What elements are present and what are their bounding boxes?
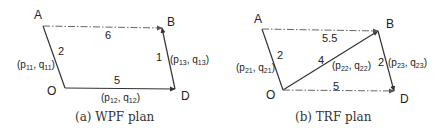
edge-weight-a-o: 2 xyxy=(277,49,283,61)
node-label-d: D xyxy=(400,92,409,106)
edge-weight-o-d: 5 xyxy=(333,80,339,92)
figure-trf-plan: A B O D 2 4 2 5.5 5 (p21, q21) (p22, q22… xyxy=(236,12,427,124)
path-label-2: (p12, q12) xyxy=(101,92,140,104)
edge-weight-a-o: 2 xyxy=(58,45,64,57)
node-label-o: O xyxy=(47,84,56,98)
path-label-1: (p11, q11) xyxy=(17,59,55,71)
edge-a-b xyxy=(43,26,162,28)
diagram-canvas: A B O D 2 5 1 6 (p11, q11) (p12, q12) (p… xyxy=(0,0,440,136)
node-label-b: B xyxy=(167,15,175,29)
caption-wpf-plan: (a) WPF plan xyxy=(75,110,155,124)
edge-a-o xyxy=(43,26,65,88)
path-label-3: (p13, q13) xyxy=(170,54,209,66)
node-label-d: D xyxy=(181,89,190,103)
node-label-a: A xyxy=(34,8,42,22)
edge-weight-o-d: 5 xyxy=(114,74,120,86)
node-label-o: O xyxy=(266,88,275,102)
node-label-a: A xyxy=(254,12,262,26)
edge-o-d xyxy=(65,88,175,89)
figure-wpf-plan: A B O D 2 5 1 6 (p11, q11) (p12, q12) (p… xyxy=(17,8,209,124)
path-label-1: (p21, q21) xyxy=(236,62,275,74)
edge-weight-a-b: 5.5 xyxy=(322,32,337,44)
path-label-3: (p23, q23) xyxy=(388,57,427,69)
caption-trf-plan: (b) TRF plan xyxy=(295,110,372,124)
path-label-2: (p22, q22) xyxy=(332,60,371,72)
node-label-b: B xyxy=(386,17,394,31)
edge-a-b xyxy=(262,29,378,31)
edge-weight-o-b: 4 xyxy=(318,54,324,66)
edge-weight-a-b: 6 xyxy=(105,29,111,41)
edge-weight-d-b: 1 xyxy=(156,51,162,63)
edge-weight-b-d: 2 xyxy=(378,56,384,68)
